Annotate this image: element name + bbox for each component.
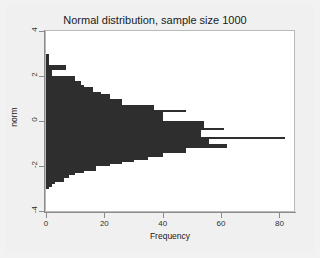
y-axis-tick (39, 211, 44, 212)
x-axis-tick (163, 213, 164, 218)
plot-area (45, 30, 295, 212)
y-axis-tick-label: 4 (30, 20, 39, 40)
x-axis-tick (221, 213, 222, 218)
histogram-bar (46, 186, 49, 189)
y-axis-tick (39, 121, 44, 122)
x-axis-title: Frequency (45, 231, 295, 241)
x-axis-line (45, 212, 296, 213)
x-axis-tick (104, 213, 105, 218)
chart-title: Normal distribution, sample size 1000 (0, 14, 310, 26)
y-axis-tick (39, 31, 44, 32)
y-axis-tick-label: 0 (30, 110, 39, 130)
x-axis-tick-label: 0 (33, 219, 59, 228)
x-axis-tick-label: 80 (266, 219, 292, 228)
x-axis-tick-label: 40 (150, 219, 176, 228)
y-axis-tick (39, 166, 44, 167)
y-axis-tick (39, 76, 44, 77)
x-axis-tick (279, 213, 280, 218)
y-axis-tick-label: 2 (30, 65, 39, 85)
x-axis-tick-label: 60 (208, 219, 234, 228)
y-axis-tick-label: -2 (30, 155, 39, 175)
x-axis-tick-label: 20 (91, 219, 117, 228)
y-axis-tick-label: -4 (30, 200, 39, 220)
y-axis-line (44, 30, 45, 213)
histogram-bars (46, 31, 294, 211)
y-axis-title: norm (9, 97, 19, 137)
chart-figure: Normal distribution, sample size 1000 42… (0, 0, 320, 258)
x-axis-tick (46, 213, 47, 218)
